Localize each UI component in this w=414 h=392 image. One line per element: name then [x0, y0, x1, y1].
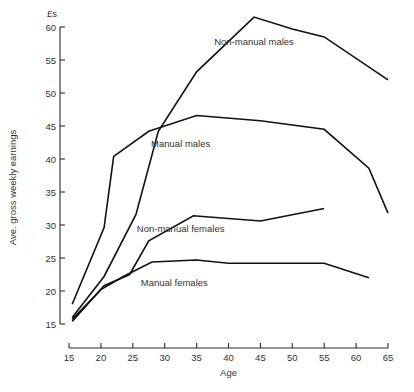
y-axis-tick-label: 50: [45, 88, 56, 99]
x-axis-tick-label: 35: [191, 352, 202, 363]
x-axis-tick-label: 15: [64, 352, 75, 363]
x-axis-tick-label: 55: [319, 352, 330, 363]
y-axis-tick-label: 15: [45, 319, 56, 330]
x-axis-tick-label: 50: [287, 352, 298, 363]
x-axis-tick-label: 30: [159, 352, 170, 363]
x-axis-title: Age: [220, 367, 237, 378]
y-axis-title: Ave. gross weekly earnings: [7, 130, 18, 246]
y-axis-tick-label: 25: [45, 253, 56, 264]
series-label-manual-females: Manual females: [141, 277, 208, 288]
y-axis-tick-label: 30: [45, 220, 56, 231]
series-line-manual-males: [72, 115, 388, 304]
x-axis-tick-label: 20: [96, 352, 107, 363]
y-axis-unit-label: £s: [47, 8, 57, 19]
x-axis: 1520253035404550556065: [64, 343, 394, 363]
series-label-manual-males: Manual males: [151, 138, 210, 149]
y-axis-tick-label: 40: [45, 154, 56, 165]
y-axis-tick-label: 45: [45, 121, 56, 132]
y-axis-tick-label: 35: [45, 187, 56, 198]
series-label-non-manual-females: Non-manual females: [137, 223, 225, 234]
series-line-manual-females: [72, 260, 369, 319]
x-axis-tick-label: 40: [223, 352, 234, 363]
y-axis-tick-label: 55: [45, 55, 56, 66]
y-axis: 15202530354045505560: [45, 22, 65, 330]
y-axis-tick-label: 20: [45, 286, 56, 297]
series-line-non-manual-males: [72, 17, 388, 317]
earnings-by-age-line-chart: 15202530354045505560 1520253035404550556…: [0, 0, 414, 392]
x-axis-tick-label: 65: [383, 352, 394, 363]
x-axis-tick-label: 60: [351, 352, 362, 363]
x-axis-tick-label: 25: [128, 352, 139, 363]
data-series-group: [72, 17, 388, 321]
chart-container: 15202530354045505560 1520253035404550556…: [0, 0, 414, 392]
y-axis-tick-label: 60: [45, 22, 56, 33]
series-label-non-manual-males: Non-manual males: [214, 36, 294, 47]
series-annotations-group: Non-manual malesManual malesNon-manual f…: [137, 36, 294, 287]
x-axis-tick-label: 45: [255, 352, 266, 363]
